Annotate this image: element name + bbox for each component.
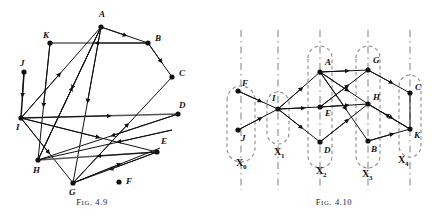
node-label-j: J bbox=[240, 133, 246, 143]
caption-suffix: . 4.9 bbox=[90, 197, 108, 207]
node-label-f: F bbox=[125, 176, 132, 186]
node-d[interactable] bbox=[317, 139, 322, 144]
edge-k-c-arrow bbox=[386, 115, 410, 129]
node-i[interactable] bbox=[275, 106, 280, 111]
edge-i-d-arrow bbox=[278, 109, 302, 128]
edge-a-h-arrow bbox=[320, 72, 348, 91]
node-c[interactable] bbox=[407, 90, 412, 95]
fig410-layer-labels: X 0 X 1 X 2 X 3 X 4 bbox=[236, 146, 409, 182]
node-k[interactable] bbox=[47, 40, 52, 45]
edge-a-g-arrow bbox=[88, 27, 102, 102]
edge-i-g-arrow bbox=[21, 118, 49, 153]
layer-label-x4: X 4 bbox=[398, 154, 409, 168]
edge-d-h-arrow bbox=[112, 114, 178, 136]
node-label-g: G bbox=[69, 187, 76, 197]
node-label-j: J bbox=[19, 58, 25, 68]
node-f[interactable] bbox=[235, 88, 240, 93]
node-label-b: B bbox=[370, 144, 377, 154]
edge-k-h-arrow bbox=[44, 43, 51, 106]
edge-i-e-arrow bbox=[21, 118, 99, 138]
node-label-c: C bbox=[415, 82, 422, 92]
svg-text:1: 1 bbox=[281, 152, 285, 160]
node-label-f: F bbox=[241, 78, 248, 88]
node-label-c: C bbox=[179, 68, 186, 78]
figure-4-10-caption: FIG. 4.10 bbox=[226, 197, 432, 207]
node-label-g: G bbox=[373, 55, 380, 65]
node-e[interactable] bbox=[154, 149, 159, 154]
node-f[interactable] bbox=[116, 179, 121, 184]
node-label-e: E bbox=[160, 136, 167, 146]
edge-a-b-arrow bbox=[101, 27, 126, 36]
layer-label-x1: X 1 bbox=[274, 146, 285, 160]
caption-suffix: . 4.10 bbox=[329, 197, 352, 207]
node-a[interactable] bbox=[317, 69, 322, 74]
node-c[interactable] bbox=[169, 74, 174, 79]
node-h[interactable] bbox=[365, 101, 370, 106]
node-label-h: H bbox=[372, 92, 381, 102]
node-label-i: I bbox=[271, 93, 276, 103]
node-j[interactable] bbox=[21, 69, 26, 74]
node-label-k: K bbox=[42, 30, 50, 40]
fig49-node-labels: A B C D E F G H I J K bbox=[15, 9, 186, 197]
node-label-h: H bbox=[32, 165, 41, 175]
svg-text:4: 4 bbox=[405, 160, 409, 168]
node-b[interactable] bbox=[145, 40, 150, 45]
edge-b-c-arrow bbox=[148, 43, 162, 62]
fig49-edges bbox=[21, 27, 178, 183]
node-g[interactable] bbox=[70, 180, 75, 185]
node-i[interactable] bbox=[18, 115, 23, 120]
node-b[interactable] bbox=[365, 138, 370, 143]
edge-i-e-arrow bbox=[278, 108, 304, 109]
edge-i-a-arrow bbox=[278, 88, 302, 109]
figure-4-10: F J I A E D G H B C K X 0 X 1 X 2 bbox=[216, 0, 432, 219]
edge-i-a-arrow bbox=[21, 74, 60, 119]
node-j[interactable] bbox=[235, 127, 240, 132]
figure-4-9-canvas: A B C D E F G H I J K bbox=[0, 0, 216, 200]
node-d[interactable] bbox=[175, 111, 180, 116]
edge-e-g-arrow bbox=[320, 85, 348, 107]
node-g[interactable] bbox=[365, 67, 370, 72]
layer-label-x2: X 2 bbox=[316, 165, 327, 179]
fig49-nodes bbox=[18, 24, 180, 185]
edge-a-g-arrow bbox=[320, 71, 348, 72]
edge-a-h-arrow bbox=[72, 27, 101, 88]
fig410-edges bbox=[238, 70, 410, 142]
node-k[interactable] bbox=[407, 126, 412, 131]
node-a[interactable] bbox=[98, 24, 103, 29]
figure-4-9: A B C D E F G H I J K FIG. 4.9 bbox=[0, 0, 216, 219]
node-label-e: E bbox=[324, 108, 331, 118]
node-label-a: A bbox=[98, 9, 105, 19]
node-e[interactable] bbox=[317, 104, 322, 109]
edge-d-h-arrow bbox=[320, 120, 348, 142]
node-label-d: D bbox=[178, 100, 186, 110]
svg-text:2: 2 bbox=[323, 171, 327, 179]
figure-4-9-caption: FIG. 4.9 bbox=[0, 197, 200, 207]
node-label-i: I bbox=[15, 122, 20, 132]
caption-smallcaps: IG bbox=[82, 199, 90, 206]
svg-text:0: 0 bbox=[243, 163, 247, 171]
node-label-d: D bbox=[323, 145, 331, 155]
node-label-a: A bbox=[324, 57, 331, 67]
figure-4-10-canvas: F J I A E D G H B C K X 0 X 1 X 2 bbox=[216, 0, 432, 200]
fig410-nodes bbox=[235, 67, 412, 144]
node-label-b: B bbox=[154, 33, 161, 43]
svg-text:3: 3 bbox=[369, 174, 373, 182]
edge-g-e-arrow bbox=[73, 164, 120, 183]
node-h[interactable] bbox=[35, 157, 40, 162]
node-label-k: K bbox=[413, 130, 421, 140]
